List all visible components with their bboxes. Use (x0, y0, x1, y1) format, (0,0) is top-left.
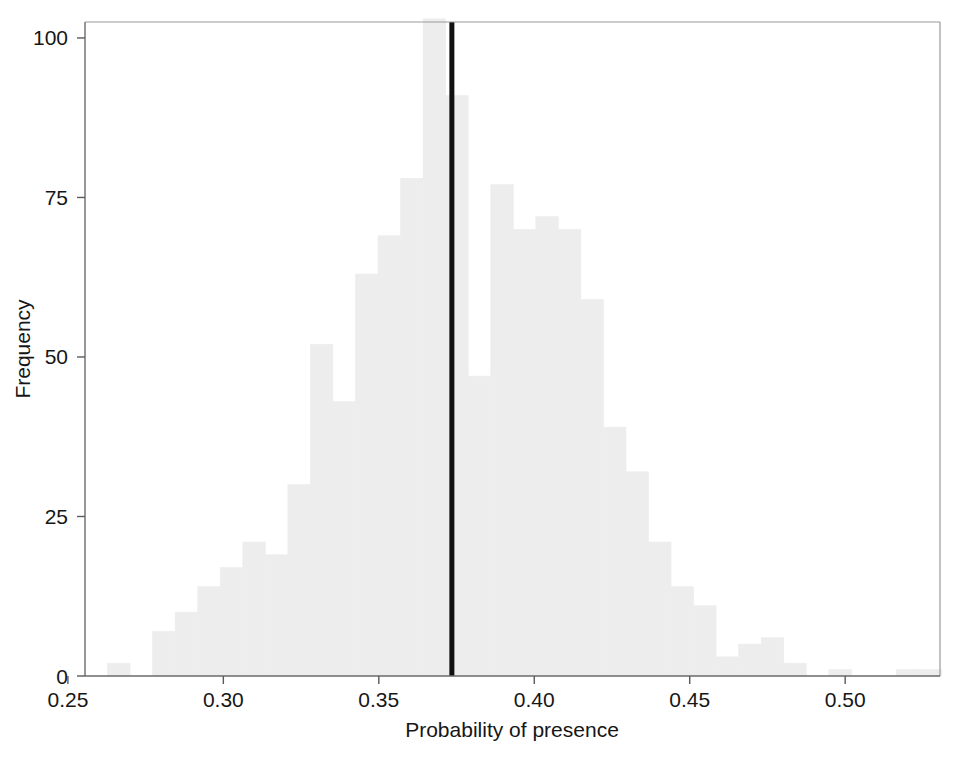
histogram-figure: 0255075100 0.250.300.350.400.450.50 Prob… (0, 0, 966, 759)
x-tick-label: 0.25 (47, 688, 88, 711)
y-tick-label: 0 (56, 665, 68, 688)
histogram-bar (243, 542, 266, 676)
x-tick-label: 0.35 (358, 688, 399, 711)
histogram-bar (581, 300, 604, 676)
histogram-bar (716, 657, 739, 676)
x-ticks-group: 0.250.300.350.400.450.50 (47, 676, 865, 711)
bars-group (108, 19, 942, 676)
histogram-bar (220, 568, 243, 676)
histogram-bar (784, 663, 807, 676)
histogram-bar (513, 229, 536, 676)
y-tick-label: 25 (45, 505, 68, 528)
histogram-bar (829, 670, 852, 676)
histogram-bar (761, 638, 784, 676)
histogram-bar (536, 217, 559, 676)
histogram-bar (333, 402, 356, 676)
x-tick-label: 0.50 (825, 688, 866, 711)
histogram-bar (108, 663, 131, 676)
histogram-plot: 0255075100 0.250.300.350.400.450.50 Prob… (0, 0, 966, 759)
histogram-bar (446, 95, 469, 676)
y-tick-label: 100 (33, 26, 68, 49)
histogram-bar (423, 19, 446, 676)
histogram-bar (626, 472, 649, 676)
histogram-bar (310, 344, 333, 676)
histogram-bar (739, 644, 762, 676)
y-tick-label: 75 (45, 186, 68, 209)
x-tick-label: 0.30 (203, 688, 244, 711)
histogram-bar (896, 670, 919, 676)
histogram-bar (468, 376, 491, 676)
histogram-bar (558, 229, 581, 676)
histogram-bar (198, 587, 221, 676)
x-tick-label: 0.40 (514, 688, 555, 711)
x-tick-label: 0.45 (669, 688, 710, 711)
histogram-bar (649, 542, 672, 676)
y-axis-title: Frequency (11, 299, 34, 399)
histogram-bar (175, 612, 198, 676)
histogram-bar (671, 587, 694, 676)
y-ticks-group: 0255075100 (33, 26, 85, 687)
histogram-bar (401, 178, 424, 676)
y-tick-label: 50 (45, 345, 68, 368)
histogram-bar (355, 274, 378, 676)
histogram-bar (694, 606, 717, 676)
histogram-bar (378, 236, 401, 676)
histogram-bar (491, 185, 514, 676)
histogram-bar (153, 631, 176, 676)
histogram-bar (265, 555, 288, 676)
histogram-bar (288, 485, 311, 676)
histogram-bar (603, 427, 626, 676)
x-axis-title: Probability of presence (405, 718, 619, 741)
histogram-bar (919, 670, 942, 676)
